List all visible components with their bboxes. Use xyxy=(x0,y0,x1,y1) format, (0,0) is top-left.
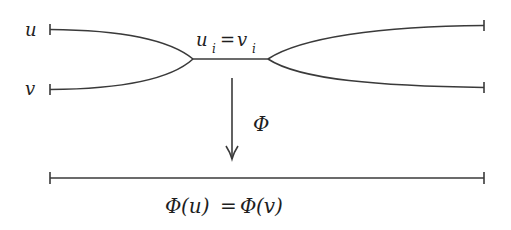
path-merge-diagram: u v u i = v i Φ Φ (u) = Φ (v) xyxy=(0,0,511,230)
label-u: u xyxy=(25,19,37,40)
merge-label-lhs-subscript: i xyxy=(212,42,216,56)
map-arrow xyxy=(226,78,238,159)
path-u xyxy=(50,24,193,59)
merge-label-equals: = xyxy=(220,29,235,50)
path-u-left-branch xyxy=(50,30,193,60)
result-arg-1: (u) xyxy=(181,194,210,218)
path-u-right-branch xyxy=(268,26,484,60)
result-map-2: Φ xyxy=(240,194,256,218)
result-label: Φ (u) = Φ (v) xyxy=(165,194,283,218)
merge-label-lhs: u xyxy=(196,29,208,50)
result-map-1: Φ xyxy=(165,194,181,218)
path-v-right-branch xyxy=(268,59,484,88)
path-v-left-branch xyxy=(50,59,193,90)
image-path xyxy=(50,172,484,184)
result-arg-2: (v) xyxy=(256,194,283,218)
merge-label-rhs-subscript: i xyxy=(252,42,256,56)
path-u-right xyxy=(268,20,484,59)
merge-label-rhs: v xyxy=(237,29,247,50)
map-label: Φ xyxy=(253,112,269,136)
merge-label: u i = v i xyxy=(196,29,256,56)
label-v: v xyxy=(25,78,35,99)
path-v xyxy=(50,59,193,95)
path-v-right xyxy=(268,59,484,93)
result-equals: = xyxy=(220,194,237,218)
